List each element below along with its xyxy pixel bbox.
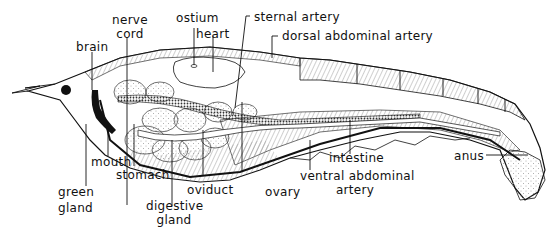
- label-digestive-gland-line2: gland: [146, 213, 202, 227]
- label-sternal-artery: sternal artery: [254, 10, 340, 24]
- eye: [61, 85, 71, 95]
- label-ventral-abdominal-artery-line1: ventral abdominal: [300, 169, 410, 183]
- label-brain: brain: [76, 40, 108, 54]
- label-dorsal-abdominal-artery: dorsal abdominal artery: [282, 29, 433, 43]
- label-mouth: mouth: [91, 155, 131, 169]
- label-intestine: intestine: [329, 151, 384, 165]
- label-green-gland-line2: gland: [58, 201, 94, 215]
- label-stomach: stomach: [116, 168, 170, 182]
- label-nerve-cord: nerve cord: [110, 13, 150, 41]
- label-nerve-cord-line1: nerve: [110, 13, 150, 27]
- label-ovary: ovary: [265, 185, 300, 199]
- label-ostium: ostium: [176, 11, 219, 25]
- label-digestive-gland: digestive gland: [146, 199, 202, 227]
- label-heart: heart: [196, 27, 229, 41]
- label-digestive-gland-line1: digestive: [146, 199, 202, 213]
- label-green-gland-line1: green: [58, 185, 94, 199]
- label-ventral-abdominal-artery: ventral abdominal artery: [300, 169, 410, 197]
- label-green-gland: green gland: [58, 185, 94, 215]
- label-oviduct: oviduct: [187, 183, 233, 197]
- label-nerve-cord-line2: cord: [110, 27, 150, 41]
- label-ventral-abdominal-artery-line2: artery: [300, 183, 410, 197]
- label-anus: anus: [454, 149, 484, 163]
